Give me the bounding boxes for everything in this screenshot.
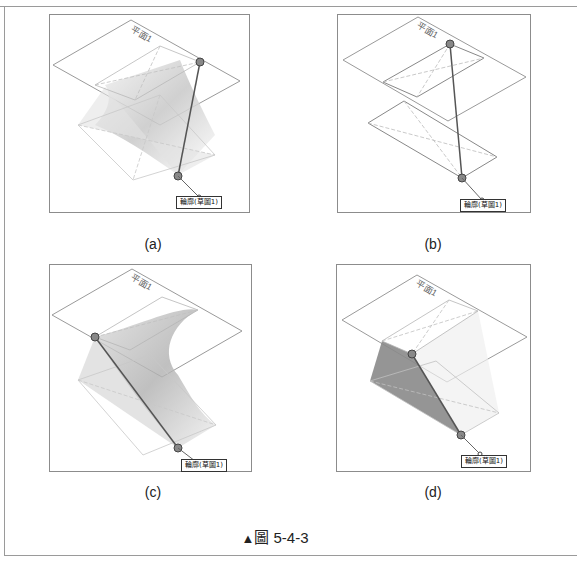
figure-panel-c: 平面1 輪廓(草圖1) xyxy=(49,264,252,472)
loft-twisted-illustration: 平面1 xyxy=(50,15,251,214)
plane-label: 平面1 xyxy=(414,278,439,298)
figure-panel-a: 平面1 輪廓(草圖1) xyxy=(49,14,250,213)
loft-curved-illustration: 平面1 xyxy=(50,265,253,473)
caption-text: 圖 5-4-3 xyxy=(254,529,308,546)
loft-planar-illustration: 平面1 xyxy=(337,265,532,473)
two-profiles-illustration: 平面1 xyxy=(338,15,532,214)
page-bottom-rule xyxy=(4,555,577,556)
plane-label: 平面1 xyxy=(415,20,440,40)
subfigure-label-a: (a) xyxy=(133,236,173,252)
profile-tag: 輪廓(草圖1) xyxy=(176,196,222,209)
plane-label: 平面1 xyxy=(129,272,154,292)
page-top-rule xyxy=(0,6,577,7)
plane-label: 平面1 xyxy=(129,24,154,44)
profile-tag: 輪廓(草圖1) xyxy=(181,459,227,472)
subfigure-label-c: (c) xyxy=(133,484,173,500)
figure-panel-d: 平面1 輪廓(草圖1) xyxy=(336,264,531,472)
profile-tag: 輪廓(草圖1) xyxy=(460,199,506,212)
subfigure-label-b: (b) xyxy=(413,236,453,252)
profile-tag: 輪廓(草圖1) xyxy=(461,455,507,468)
subfigure-label-d: (d) xyxy=(413,484,453,500)
page-left-rule xyxy=(4,6,5,556)
figure-caption: ▲圖 5-4-3 xyxy=(200,526,350,547)
triangle-marker-icon: ▲ xyxy=(241,531,254,546)
figure-panel-b: 平面1 輪廓(草圖1) xyxy=(337,14,531,213)
